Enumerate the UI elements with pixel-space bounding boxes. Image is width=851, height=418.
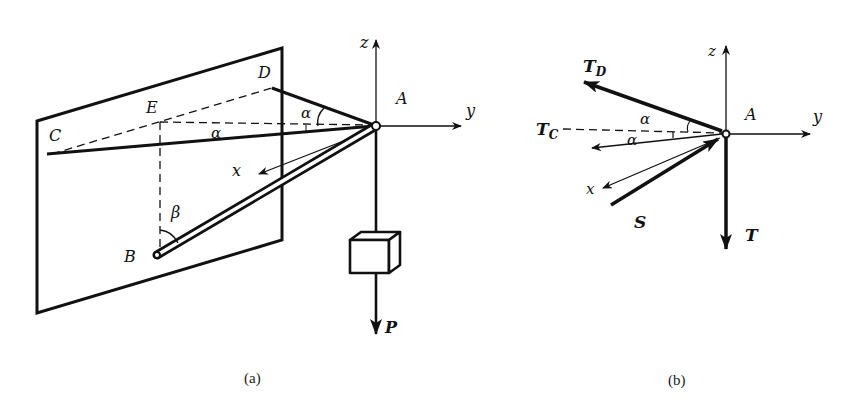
figure-a: z A y D E C α α x β B P (a) xyxy=(37,33,476,387)
force-td-arrow xyxy=(584,82,722,131)
caption-b: (b) xyxy=(668,372,686,389)
label-tc: TC xyxy=(536,119,559,142)
label-y-b: y xyxy=(812,107,823,126)
label-z-b: z xyxy=(707,42,716,60)
hinge-b xyxy=(154,252,160,258)
label-z: z xyxy=(359,33,369,52)
label-a-b: A xyxy=(743,105,757,124)
label-b: B xyxy=(123,247,136,266)
label-td: TD xyxy=(583,56,607,79)
label-alpha-mid: α xyxy=(211,124,221,142)
joint-a xyxy=(372,122,380,130)
strut-ab xyxy=(157,126,376,255)
joint-a-b xyxy=(723,131,730,138)
label-alpha-top: α xyxy=(301,104,311,122)
label-beta: β xyxy=(170,203,180,222)
label-alpha-lower-b: α xyxy=(627,131,637,149)
cable-ad xyxy=(272,88,374,125)
label-e: E xyxy=(145,98,158,117)
label-d: D xyxy=(257,63,271,82)
label-s: S xyxy=(634,212,646,232)
label-a: A xyxy=(394,89,408,108)
label-c: C xyxy=(49,126,61,145)
alpha-arc-top xyxy=(318,108,324,126)
tc-dashed-line xyxy=(563,129,722,133)
label-p: P xyxy=(384,318,398,337)
figure-b: z A y TD TC α α x S T (b) xyxy=(536,42,823,389)
label-t: T xyxy=(745,225,759,245)
statics-diagram: z A y D E C α α x β B P (a) z xyxy=(0,0,851,418)
weight-box xyxy=(350,232,400,273)
caption-a: (a) xyxy=(244,370,261,387)
alpha-arc-upper xyxy=(687,121,690,132)
label-x: x xyxy=(232,161,241,180)
label-y: y xyxy=(465,101,476,120)
label-x-b: x xyxy=(586,180,595,198)
label-alpha-upper-b: α xyxy=(640,110,650,128)
